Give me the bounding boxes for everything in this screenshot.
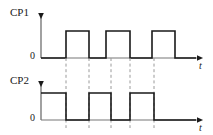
cp2-waveform [41,93,196,120]
cp1-time-axis-label: t [199,61,202,71]
cp2-time-axis-label: t [199,123,202,133]
timing-diagram: CP1 0 t CP2 0 t [0,0,213,135]
cp2-origin-label: 0 [30,113,35,123]
cp1-panel [41,14,198,58]
cp2-signal-label: CP2 [10,75,29,86]
cp2-panel [41,82,198,120]
cp1-origin-label: 0 [30,51,35,61]
cp1-waveform [41,31,196,58]
cp1-signal-label: CP1 [10,7,29,18]
